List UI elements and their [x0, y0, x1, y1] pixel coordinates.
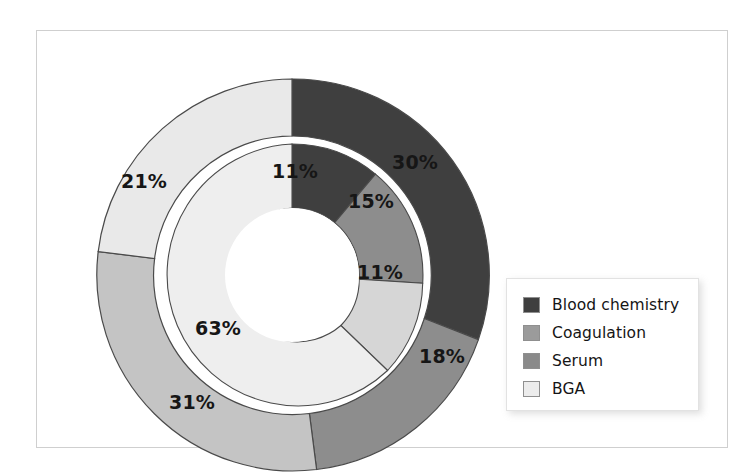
- label-outer-bga: 21%: [121, 172, 167, 191]
- label-outer-blood-chemistry: 30%: [392, 153, 438, 172]
- legend-swatch-coagulation-icon: [523, 325, 540, 341]
- nested-donut-chart: 30% 18% 31% 21% 11% 15% 11% 63%: [85, 75, 505, 474]
- legend-item-coagulation[interactable]: Coagulation: [523, 319, 688, 346]
- legend-swatch-bga-icon: [523, 381, 540, 397]
- legend-label-coagulation: Coagulation: [552, 324, 646, 342]
- legend-item-blood-chemistry[interactable]: Blood chemistry: [523, 291, 688, 318]
- label-outer-serum: 18%: [419, 347, 465, 366]
- figure-frame: 30% 18% 31% 21% 11% 15% 11% 63% Blood ch…: [36, 30, 728, 448]
- label-inner-blood-chemistry: 11%: [272, 162, 318, 181]
- donut-center-hole: [225, 208, 359, 342]
- legend-label-blood-chemistry: Blood chemistry: [552, 296, 679, 314]
- label-inner-bga: 63%: [195, 319, 241, 338]
- chart-legend: Blood chemistry Coagulation Serum BGA: [506, 278, 699, 411]
- legend-swatch-blood-chemistry-icon: [523, 297, 540, 313]
- label-outer-coagulation: 31%: [169, 393, 215, 412]
- legend-label-serum: Serum: [552, 352, 603, 370]
- legend-swatch-serum-icon: [523, 353, 540, 369]
- donut-chart-svg: [85, 75, 505, 474]
- legend-label-bga: BGA: [552, 380, 585, 398]
- legend-item-bga[interactable]: BGA: [523, 375, 688, 402]
- figure-canvas: 30% 18% 31% 21% 11% 15% 11% 63% Blood ch…: [0, 0, 739, 474]
- legend-item-serum[interactable]: Serum: [523, 347, 688, 374]
- label-inner-serum: 15%: [348, 192, 394, 211]
- label-inner-coagulation: 11%: [357, 263, 403, 282]
